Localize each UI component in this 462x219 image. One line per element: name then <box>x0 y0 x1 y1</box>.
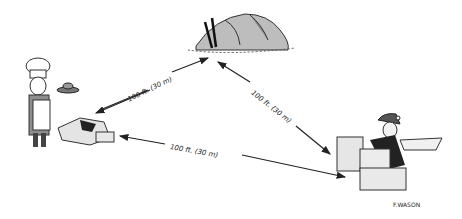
tent-icon <box>188 14 295 53</box>
scene-drawing <box>0 0 462 219</box>
fire-ring-icon <box>58 118 114 145</box>
cartoon-illustration: 100 ft. (30 m) 100 ft. (30 m) 100 ft. (3… <box>0 0 462 219</box>
person-behind-rocks-icon <box>337 114 442 190</box>
artist-signature: F.WASON <box>393 201 420 208</box>
